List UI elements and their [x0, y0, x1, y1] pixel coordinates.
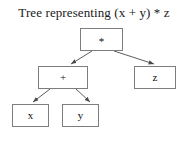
expression-tree-figure: Tree representing (x + y) * z * + z x y	[0, 0, 188, 161]
tree-node-x-label: x	[28, 110, 34, 121]
edge-root-to-z	[114, 51, 154, 64]
edge-plus-to-x	[33, 89, 50, 102]
tree-node-plus: +	[38, 66, 88, 89]
tree-node-root-label: *	[99, 36, 105, 47]
tree-node-z: z	[134, 66, 176, 89]
tree-node-root: *	[80, 28, 123, 51]
tree-node-plus-label: +	[60, 72, 66, 83]
tree-node-z-label: z	[153, 72, 158, 83]
edge-plus-to-y	[76, 89, 90, 102]
tree-node-y-label: y	[78, 110, 84, 121]
edge-root-to-plus	[71, 51, 92, 64]
tree-node-y: y	[62, 104, 99, 127]
tree-node-x: x	[12, 104, 49, 127]
